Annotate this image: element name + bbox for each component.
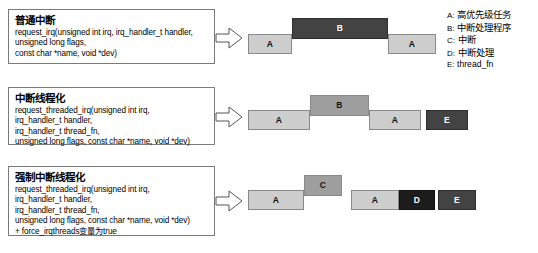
- legend-value: 中断: [458, 34, 476, 45]
- block-arrow-right-icon: [215, 189, 243, 213]
- timeline-block-d: D: [399, 190, 435, 210]
- description-line: request_threaded_irq(unsigned int irq,: [15, 185, 208, 195]
- description-box-forced-threaded-interrupt: 强制中断线程化 request_threaded_irq(unsigned in…: [8, 166, 215, 236]
- description-line: unsigned long flags, const char *name, v…: [15, 216, 208, 226]
- description-line: irq_handler_t thread_fn,: [15, 127, 208, 137]
- description-line: const char *name, void *dev): [15, 49, 208, 59]
- timeline-block-a: A: [248, 110, 310, 130]
- legend-item: A: 高优先级任务: [447, 9, 535, 22]
- legend-key: D:: [447, 49, 455, 58]
- timeline-normal-interrupt: ABA: [248, 8, 436, 64]
- timeline-block-e: E: [438, 190, 476, 210]
- legend-value: 中断处理程序: [457, 22, 511, 33]
- timeline-forced-threaded-interrupt: ACADE: [248, 166, 436, 222]
- description-line: unsigned long flags,: [15, 38, 208, 48]
- description-box-threaded-interrupt: 中断线程化 request_threaded_irq(unsigned int …: [8, 87, 215, 145]
- description-line: irq_handler_t handler,: [15, 195, 208, 205]
- timeline-block-c: C: [304, 175, 342, 196]
- description-title: 普通中断: [15, 14, 208, 27]
- description-line: unsigned long flags, const char *name, v…: [15, 137, 208, 147]
- block-arrow-right-icon: [215, 105, 243, 129]
- description-line: irq_handler_t handler,: [15, 116, 208, 126]
- timeline-block-a: A: [369, 110, 421, 130]
- timeline-block-a: A: [388, 34, 436, 54]
- description-line: irq_handler_t thread_fn,: [15, 206, 208, 216]
- timeline-block-e: E: [426, 110, 468, 130]
- block-arrow-right-icon: [215, 26, 243, 50]
- legend-key: C:: [447, 36, 455, 45]
- legend-key: B:: [447, 24, 455, 33]
- legend: A: 高优先级任务 B: 中断处理程序 C: 中断 D: 中断处理 E: thr…: [447, 9, 535, 71]
- timeline-block-a: A: [351, 190, 399, 210]
- description-title: 强制中断线程化: [15, 171, 208, 184]
- legend-item: B: 中断处理程序: [447, 22, 535, 35]
- legend-item: E: thread_fn: [447, 59, 535, 71]
- legend-key: E:: [447, 60, 455, 69]
- description-line: request_irq(unsigned int irq, irq_handle…: [15, 28, 208, 38]
- timeline-block-a: A: [248, 34, 292, 54]
- legend-item: C: 中断: [447, 34, 535, 47]
- timeline-block-b: B: [310, 95, 369, 116]
- legend-item: D: 中断处理: [447, 47, 535, 60]
- legend-key: A:: [447, 11, 455, 20]
- timeline-threaded-interrupt: ABAE: [248, 86, 436, 142]
- description-title: 中断线程化: [15, 92, 208, 105]
- description-line: + force_irqthreads变量为true: [15, 227, 208, 237]
- description-line: request_threaded_irq(unsigned int irq,: [15, 106, 208, 116]
- legend-value: thread_fn: [457, 59, 493, 69]
- description-box-normal-interrupt: 普通中断 request_irq(unsigned int irq, irq_h…: [8, 9, 215, 64]
- timeline-block-a: A: [248, 190, 304, 210]
- legend-value: 中断处理: [458, 47, 494, 58]
- legend-value: 高优先级任务: [457, 9, 511, 20]
- timeline-block-b: B: [292, 18, 388, 39]
